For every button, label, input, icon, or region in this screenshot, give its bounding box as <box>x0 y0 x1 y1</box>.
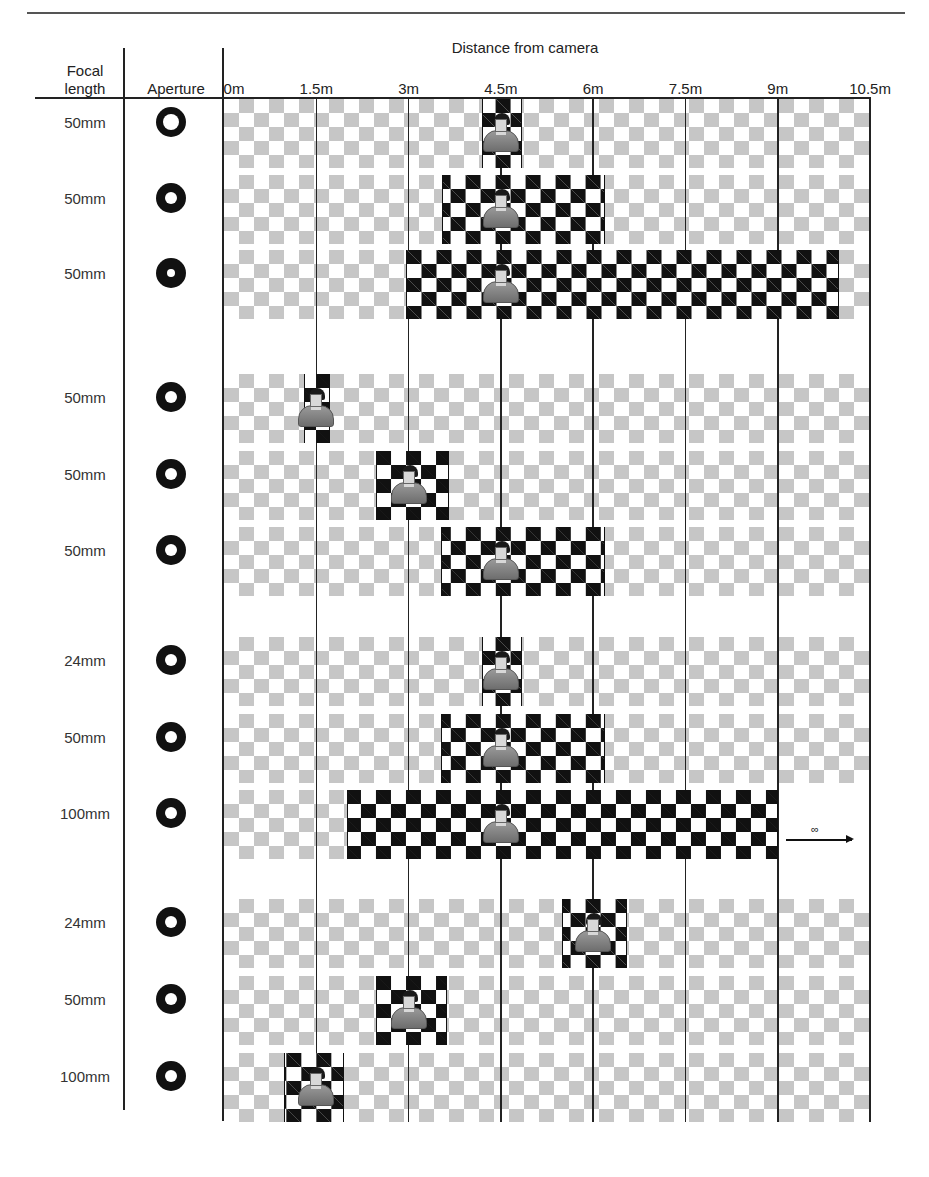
person-face <box>495 810 507 823</box>
focal-length-label: 50mm <box>40 991 130 1008</box>
person-face <box>310 394 322 407</box>
sharp-zone <box>347 790 778 859</box>
focal-length-label: 50mm <box>40 389 130 406</box>
person-face <box>495 119 507 132</box>
person-subject-icon <box>482 189 520 229</box>
person-subject-icon <box>482 113 520 153</box>
aperture-hole <box>165 544 178 557</box>
focal-length-label: 24mm <box>40 652 130 669</box>
sharp-zone <box>441 714 605 783</box>
focal-length-label: 50mm <box>40 466 130 483</box>
aperture-hole <box>165 1070 178 1083</box>
blurred-zone <box>224 451 870 520</box>
person-subject-icon <box>390 990 428 1030</box>
person-subject-icon <box>297 388 335 428</box>
focal-length-header: Focal length <box>40 62 130 98</box>
focal-length-label: 50mm <box>40 265 130 282</box>
aperture-medium-icon <box>156 907 186 937</box>
sharp-zone <box>442 175 605 244</box>
aperture-hole <box>165 192 178 205</box>
aperture-medium-icon <box>156 1061 186 1091</box>
aperture-hole <box>165 731 178 744</box>
top-rule <box>27 12 905 14</box>
aperture-hole <box>165 993 178 1006</box>
person-face <box>310 1073 322 1086</box>
aperture-medium-icon <box>156 984 186 1014</box>
person-face <box>495 547 507 560</box>
focal-length-label: 50mm <box>40 190 130 207</box>
aperture-medium-icon <box>156 722 186 752</box>
aperture-hole <box>165 468 178 481</box>
axis-tick-label: 3m <box>398 80 419 97</box>
blurred-zone <box>224 899 870 968</box>
aperture-hole <box>165 654 178 667</box>
aperture-header: Aperture <box>126 80 226 98</box>
aperture-hole <box>165 807 178 820</box>
person-face <box>403 471 415 484</box>
axis-tick-label: 6m <box>583 80 604 97</box>
person-face <box>495 270 507 283</box>
aperture-medium-icon <box>156 382 186 412</box>
person-subject-icon <box>574 913 612 953</box>
distance-gridline <box>316 97 318 1122</box>
person-face <box>495 657 507 670</box>
blurred-zone <box>224 99 870 168</box>
axis-tick-label: 1.5m <box>300 80 333 97</box>
person-subject-icon <box>390 465 428 505</box>
person-subject-icon <box>482 541 520 581</box>
aperture-hole <box>163 114 180 131</box>
person-face <box>587 919 599 932</box>
person-face <box>403 996 415 1009</box>
focal-length-label: 24mm <box>40 914 130 931</box>
focal-length-label: 100mm <box>40 1068 130 1085</box>
focal-length-label: 100mm <box>40 805 130 822</box>
axis-tick-label: 9m <box>767 80 788 97</box>
focal-column-divider <box>123 48 125 1110</box>
focal-length-header-line2: length <box>40 80 130 98</box>
person-subject-icon <box>482 804 520 844</box>
person-subject-icon <box>482 264 520 304</box>
blurred-zone <box>224 637 870 706</box>
axis-tick-label: 7.5m <box>669 80 702 97</box>
distance-gridline <box>869 97 871 1122</box>
sharp-zone <box>441 527 605 596</box>
blurred-zone <box>224 976 870 1045</box>
sharp-zone <box>406 250 840 319</box>
person-face <box>495 734 507 747</box>
axis-tick-label: 0m <box>224 80 245 97</box>
aperture-column-divider <box>222 48 224 1121</box>
person-subject-icon <box>482 651 520 691</box>
infinity-symbol: ∞ <box>811 823 819 835</box>
focal-length-label: 50mm <box>40 542 130 559</box>
aperture-hole <box>167 269 175 277</box>
aperture-medium-icon <box>156 798 186 828</box>
focal-length-header-line1: Focal <box>40 62 130 80</box>
person-face <box>495 195 507 208</box>
header-divider <box>35 97 870 99</box>
person-subject-icon <box>297 1067 335 1107</box>
axis-tick-label: 10.5m <box>849 80 891 97</box>
aperture-medium-icon <box>156 645 186 675</box>
focal-length-label: 50mm <box>40 729 130 746</box>
aperture-medium-icon <box>156 535 186 565</box>
aperture-large-icon <box>156 107 186 137</box>
focal-length-label: 50mm <box>40 114 130 131</box>
infinity-arrow-icon <box>786 839 852 841</box>
aperture-small-icon <box>156 258 186 288</box>
aperture-hole <box>165 391 178 404</box>
axis-tick-label: 4.5m <box>484 80 517 97</box>
person-subject-icon <box>482 728 520 768</box>
aperture-medium-icon <box>156 459 186 489</box>
aperture-medium-icon <box>156 183 186 213</box>
distance-title: Distance from camera <box>400 39 650 57</box>
aperture-hole <box>165 916 178 929</box>
